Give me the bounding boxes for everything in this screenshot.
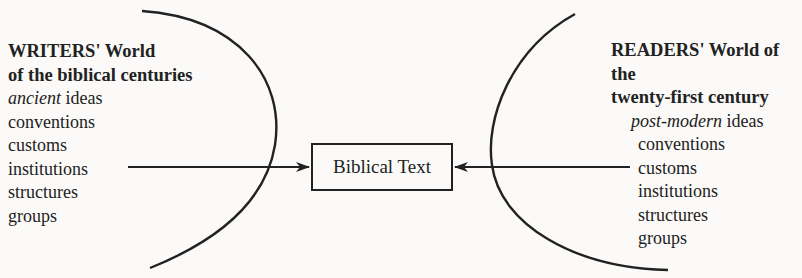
writers-title-line1: WRITERS' World (8, 40, 192, 64)
readers-item: conventions (611, 133, 802, 157)
readers-title-line2: twenty-first century (611, 86, 802, 110)
readers-world-block: READERS' World of the twenty-first centu… (611, 39, 802, 251)
readers-item: groups (611, 227, 802, 251)
writers-item: structures (8, 181, 192, 205)
writers-item: conventions (8, 111, 192, 135)
readers-ideas-text: ideas (722, 111, 763, 131)
writers-title-line2: of the biblical centuries (8, 64, 192, 88)
writers-world-block: WRITERS' World of the biblical centuries… (8, 40, 192, 228)
readers-emph: post-modern (631, 111, 722, 131)
biblical-text-box: Biblical Text (311, 143, 453, 191)
readers-item: institutions (611, 180, 802, 204)
writers-emph: ancient (8, 88, 61, 108)
writers-item: institutions (8, 158, 192, 182)
writers-ideas-text: ideas (61, 88, 102, 108)
writers-item-ideas: ancient ideas (8, 87, 192, 111)
writers-item: customs (8, 134, 192, 158)
readers-item: structures (611, 204, 802, 228)
readers-item-ideas: post-modern ideas (611, 110, 802, 134)
writers-item: groups (8, 205, 192, 229)
readers-item: customs (611, 157, 802, 181)
biblical-text-label: Biblical Text (333, 156, 431, 178)
readers-title-line1: READERS' World of the (611, 39, 802, 86)
